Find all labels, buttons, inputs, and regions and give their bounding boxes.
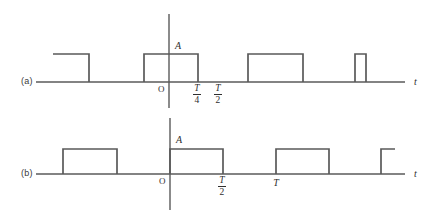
fraction-denominator: 4	[193, 95, 200, 105]
fraction-t-over-2: T 2	[218, 176, 225, 197]
panel-a-pulse-1	[53, 54, 89, 82]
fraction-denominator: 2	[218, 187, 225, 197]
panel-b-origin-label: O	[159, 176, 166, 186]
panel-a-amplitude-label: A	[175, 40, 181, 51]
fraction-numerator: T	[218, 176, 225, 187]
fraction-denominator: 2	[214, 95, 221, 105]
panel-b-amplitude-label: A	[176, 134, 182, 145]
fraction-t-over-2: T 2	[214, 84, 221, 105]
waveform-figure: (a) A O t T 4 T 2 (b) A O t T 2 T	[0, 0, 436, 218]
panel-b-pulse-4	[381, 149, 395, 174]
panel-a-label: (a)	[21, 76, 33, 86]
panel-b-tick-t: T	[269, 177, 283, 188]
fraction-numerator: T	[214, 84, 221, 95]
panel-a-pulse-4	[355, 54, 366, 82]
panel-a-pulse-3	[248, 54, 303, 82]
panel-b-time-axis-label: t	[414, 168, 417, 179]
panel-a-tick-t-over-2: T 2	[210, 84, 226, 107]
panel-b-tick-t-over-2: T 2	[214, 176, 230, 199]
panel-b-pulse-3	[276, 149, 329, 174]
panel-b-pulse-2	[170, 149, 223, 174]
panel-a-origin-label: O	[158, 84, 165, 94]
fraction-t-over-4: T 4	[193, 84, 200, 105]
panel-a-time-axis-label: t	[414, 76, 417, 87]
panel-b-label: (b)	[21, 168, 33, 178]
panel-a-pulse-2	[144, 54, 198, 82]
fraction-numerator: T	[193, 84, 200, 95]
panel-b-pulse-1	[63, 149, 117, 174]
panel-a-tick-t-over-4: T 4	[189, 84, 205, 107]
